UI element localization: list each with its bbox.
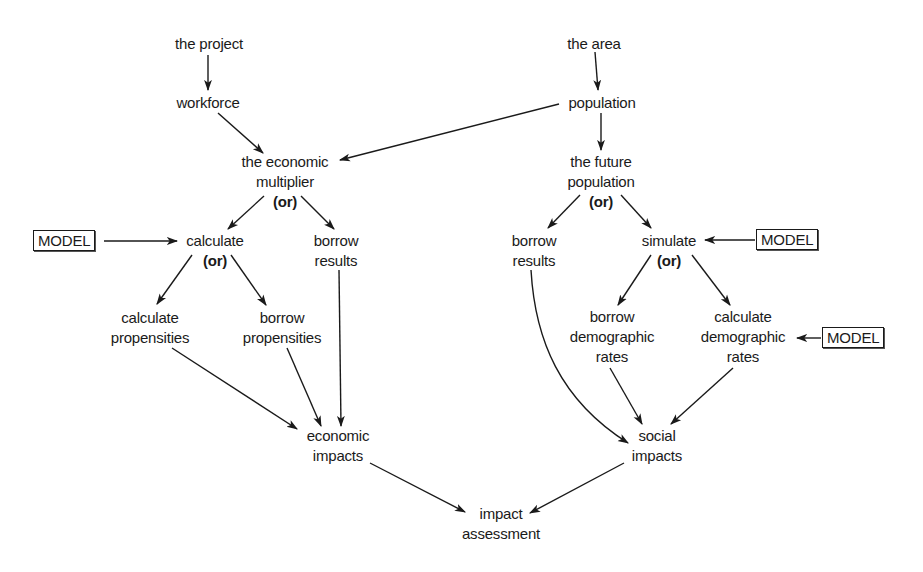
edge-borrowres-econ [339,270,341,426]
edge-workforce-multiplier [218,113,263,153]
model-box-right-bottom: MODEL [822,327,884,348]
node-calculate-demographic-rates: calculate demographic rates [701,307,786,367]
node-borrow-results-right: borrow results [512,231,557,271]
node-economic-impacts: economic impacts [307,426,370,466]
edge-borrowprop-econ [287,348,321,426]
edge-econ-assessment [370,463,465,512]
or-label: (or) [642,251,696,271]
node-economic-multiplier: the economic multiplier (or) [242,152,329,212]
or-label: (or) [567,192,634,212]
node-borrow-demographic-rates: borrow demographic rates [570,307,655,367]
model-box-left: MODEL [33,230,95,251]
node-future-population: the future population (or) [567,152,634,212]
node-social-impacts: social impacts [632,426,682,466]
node-population: population [568,93,635,113]
or-label: (or) [186,251,243,271]
node-simulate: simulate (or) [642,231,696,271]
node-borrow-results-left: borrow results [314,231,359,271]
edge-calcprop-econ [172,348,297,429]
node-calculate: calculate (or) [186,231,243,271]
model-box-right-top: MODEL [756,229,818,250]
or-label: (or) [242,192,329,212]
edge-calcdemo-social [671,368,733,424]
node-workforce: workforce [176,93,239,113]
edge-area-population [595,52,598,90]
node-the-area: the area [567,34,620,54]
node-impact-assessment: impact assessment [462,504,540,544]
diagram-edges [0,0,923,572]
edge-population-multiplier [340,104,559,160]
node-calculate-propensities: calculate propensities [111,308,189,348]
edge-borrowdemo-social [610,368,642,424]
edge-social-assessment [530,463,624,513]
edge-simulate-calcdemo [692,255,730,305]
node-the-project: the project [175,34,243,54]
node-borrow-propensities: borrow propensities [243,308,321,348]
